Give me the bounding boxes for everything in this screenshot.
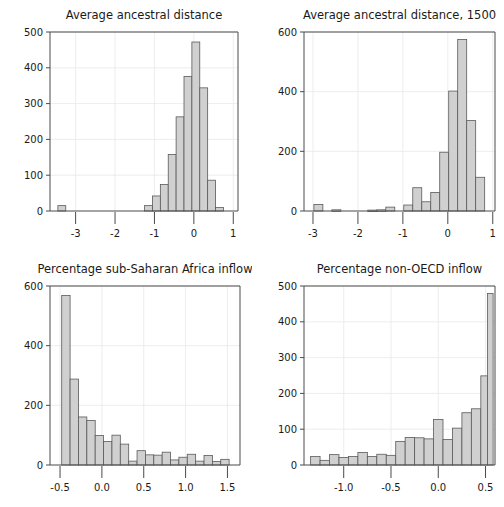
histogram-bar xyxy=(160,185,168,211)
histogram-bar xyxy=(481,376,488,465)
histogram-bar xyxy=(58,206,66,211)
histogram-bar xyxy=(339,457,348,465)
histogram-bar xyxy=(386,207,395,211)
histogram-svg: Average ancestral distance, 150002004006… xyxy=(252,0,504,253)
histogram-bar xyxy=(404,205,413,211)
x-tick-label: -3 xyxy=(308,228,318,239)
histogram-bar xyxy=(348,456,357,465)
chart-title: Average ancestral distance, 1500 xyxy=(303,8,496,22)
chart-panel-percentage-sub-saharan-africa-inflow: Percentage sub-Saharan Africa inflow0200… xyxy=(0,253,252,507)
histogram-bar xyxy=(413,188,422,211)
histogram-bar xyxy=(95,435,103,465)
x-tick-label: 0 xyxy=(191,228,197,239)
histogram-bar xyxy=(87,421,95,465)
histogram-bar xyxy=(171,460,179,465)
histogram-bar xyxy=(471,409,480,465)
histogram-bar xyxy=(314,204,323,211)
chart-panel-average-ancestral-distance-1500: Average ancestral distance, 150002004006… xyxy=(252,0,504,253)
histogram-bar xyxy=(440,152,449,211)
y-tick-label: 600 xyxy=(24,281,43,292)
chart-panel-average-ancestral-distance: Average ancestral distance01002003004005… xyxy=(0,0,252,253)
x-tick-label: -1 xyxy=(398,228,408,239)
histogram-bar xyxy=(386,455,395,465)
histogram-bar xyxy=(70,379,78,465)
y-axis: 0200400600 xyxy=(278,27,304,217)
y-tick-label: 0 xyxy=(291,206,297,217)
histogram-bar xyxy=(415,438,424,465)
histogram-bar xyxy=(462,413,471,465)
histogram-bar xyxy=(204,455,212,465)
y-tick-label: 0 xyxy=(37,206,43,217)
histogram-bar xyxy=(176,117,184,211)
y-tick-label: 400 xyxy=(24,340,43,351)
x-tick-label: 1 xyxy=(490,228,496,239)
bars-group xyxy=(311,294,493,465)
histogram-bar xyxy=(120,444,128,465)
histogram-bar xyxy=(196,461,204,465)
y-tick-label: 200 xyxy=(278,388,297,399)
y-tick-label: 300 xyxy=(24,98,43,109)
y-tick-label: 200 xyxy=(24,400,43,411)
histogram-bar xyxy=(145,206,153,211)
histogram-bar xyxy=(434,420,443,465)
y-tick-label: 500 xyxy=(278,281,297,292)
x-axis: -3-2-101 xyxy=(50,211,238,239)
histogram-bar xyxy=(187,454,195,465)
x-axis: -1.0-0.50.00.5 xyxy=(304,465,495,493)
histogram-bar xyxy=(78,417,86,465)
y-tick-label: 600 xyxy=(278,27,297,38)
histogram-bar xyxy=(200,88,208,211)
histogram-bar xyxy=(405,437,414,465)
y-axis: 0100200300400500 xyxy=(24,27,50,217)
histogram-bar xyxy=(179,457,187,465)
x-tick-label: 0.5 xyxy=(136,482,152,493)
histogram-bar xyxy=(216,207,224,211)
histogram-bar xyxy=(208,180,216,211)
x-tick-label: -2 xyxy=(110,228,120,239)
chart-title: Percentage non-OECD inflow xyxy=(317,262,482,276)
histogram-bar xyxy=(431,193,440,211)
chart-title: Percentage sub-Saharan Africa inflow xyxy=(37,262,252,276)
histogram-svg: Percentage non-OECD inflow01002003004005… xyxy=(252,253,504,507)
histogram-bar xyxy=(443,440,452,465)
histogram-bar xyxy=(152,196,160,211)
histogram-bar xyxy=(112,435,120,465)
x-tick-label: 1.0 xyxy=(178,482,194,493)
histogram-bar xyxy=(452,428,461,465)
y-axis: 0200400600 xyxy=(24,281,50,471)
histogram-bar xyxy=(129,461,137,465)
x-tick-label: 0.0 xyxy=(94,482,110,493)
histogram-bar xyxy=(396,441,405,465)
histogram-bar xyxy=(330,455,339,465)
y-tick-label: 200 xyxy=(278,146,297,157)
histogram-bar xyxy=(422,202,431,211)
y-tick-label: 200 xyxy=(24,134,43,145)
histogram-bar xyxy=(192,42,200,211)
histogram-bar xyxy=(154,455,162,465)
histogram-figure: Average ancestral distance01002003004005… xyxy=(0,0,504,507)
histogram-bar xyxy=(137,451,145,465)
histogram-bar xyxy=(62,296,70,465)
x-tick-label: 0.0 xyxy=(430,482,446,493)
chart-panel-percentage-non-oecd-inflow: Percentage non-OECD inflow01002003004005… xyxy=(252,253,504,507)
x-tick-label: -1.0 xyxy=(334,482,354,493)
chart-title: Average ancestral distance xyxy=(66,8,222,22)
y-tick-label: 100 xyxy=(278,424,297,435)
histogram-bar xyxy=(162,452,170,465)
histogram-bar xyxy=(424,439,433,465)
x-tick-label: -2 xyxy=(353,228,363,239)
x-tick-label: -3 xyxy=(71,228,81,239)
y-axis: 0100200300400500 xyxy=(278,281,304,471)
y-tick-label: 100 xyxy=(24,170,43,181)
x-tick-label: -1 xyxy=(149,228,159,239)
y-tick-label: 0 xyxy=(291,460,297,471)
histogram-bar xyxy=(168,154,176,211)
histogram-bar xyxy=(212,461,220,465)
y-tick-label: 500 xyxy=(24,27,43,38)
x-tick-label: 0 xyxy=(445,228,451,239)
y-tick-label: 400 xyxy=(278,86,297,97)
histogram-svg: Average ancestral distance01002003004005… xyxy=(0,0,252,253)
y-tick-label: 300 xyxy=(278,352,297,363)
histogram-bar xyxy=(449,91,458,211)
x-axis: -0.50.00.51.01.5 xyxy=(50,465,240,493)
